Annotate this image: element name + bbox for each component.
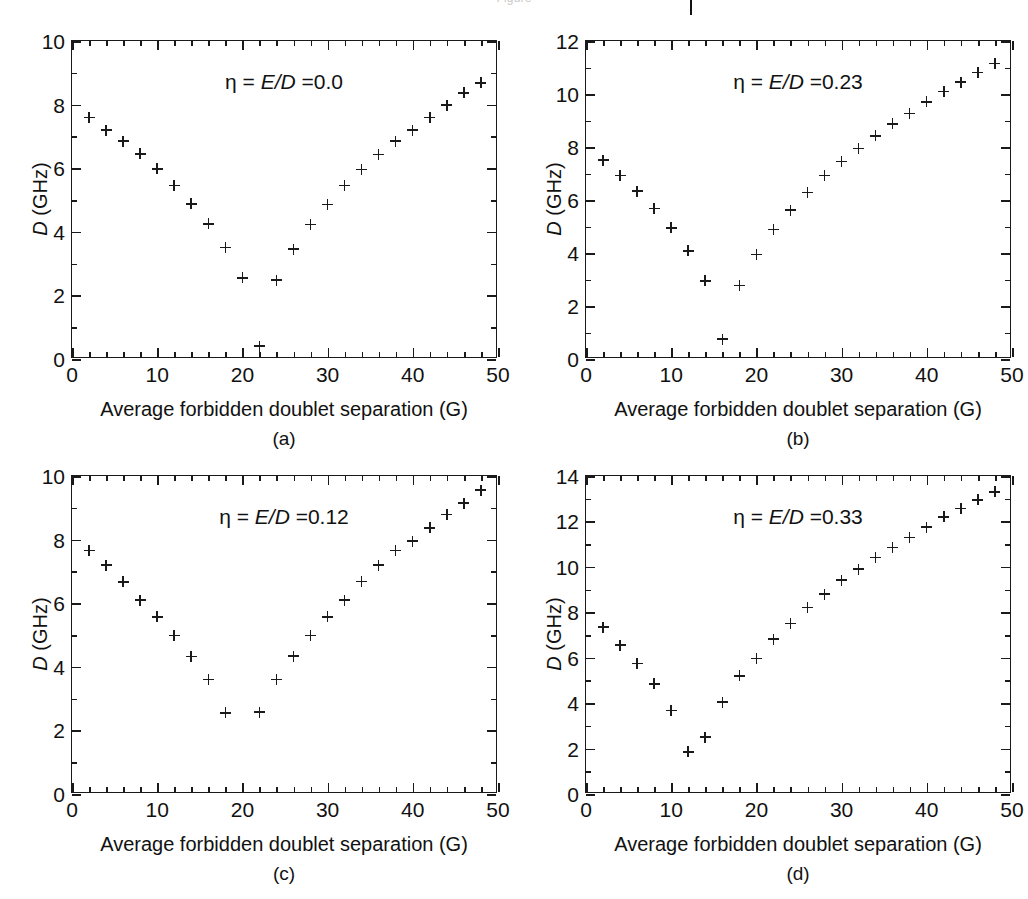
y-tick-major-b bbox=[1001, 253, 1010, 255]
data-point bbox=[203, 218, 214, 229]
data-point bbox=[870, 552, 881, 563]
x-tick-minor-d bbox=[961, 787, 963, 792]
data-point bbox=[169, 180, 180, 191]
x-tick-minor-d bbox=[773, 787, 775, 792]
x-tick-major-c bbox=[328, 476, 330, 485]
x-tick-minor-b bbox=[654, 41, 656, 46]
y-tick-major-c bbox=[487, 603, 496, 605]
x-tick-major-a bbox=[72, 348, 74, 357]
x-axis-title-a: Average forbidden doublet separation (G) bbox=[71, 398, 497, 421]
y-tick-major-c bbox=[72, 603, 81, 605]
data-point bbox=[666, 705, 677, 716]
eta-annotation-c: η = E/D =0.12 bbox=[219, 505, 349, 529]
x-tick-major-b bbox=[927, 41, 929, 50]
y-tick-label-a: 2 bbox=[53, 285, 65, 306]
x-tick-minor-c bbox=[276, 787, 278, 792]
x-tick-label-c: 20 bbox=[231, 799, 254, 820]
x-tick-minor-c bbox=[191, 787, 193, 792]
data-point bbox=[666, 222, 677, 233]
y-tick-label-a: 8 bbox=[53, 94, 65, 115]
x-tick-minor-d bbox=[825, 787, 827, 792]
data-point bbox=[339, 180, 350, 191]
y-tick-minor-b bbox=[586, 121, 591, 123]
y-tick-label-a: 10 bbox=[42, 31, 65, 52]
x-tick-minor-a bbox=[345, 352, 347, 357]
y-tick-major-d bbox=[1001, 658, 1010, 660]
x-tick-major-a bbox=[498, 41, 500, 50]
x-tick-minor-c bbox=[259, 787, 261, 792]
x-tick-label-c: 40 bbox=[401, 799, 424, 820]
x-tick-minor-c bbox=[464, 787, 466, 792]
data-point bbox=[887, 542, 898, 553]
x-tick-major-c bbox=[413, 783, 415, 792]
x-tick-major-d bbox=[842, 476, 844, 485]
x-tick-minor-b bbox=[654, 352, 656, 357]
x-tick-minor-d bbox=[705, 476, 707, 481]
panel-label-b: (b) bbox=[585, 428, 1011, 450]
data-point bbox=[220, 707, 231, 718]
x-tick-minor-c bbox=[106, 476, 108, 481]
x-tick-minor-a bbox=[311, 41, 313, 46]
x-tick-major-d bbox=[671, 783, 673, 792]
data-point bbox=[424, 112, 435, 123]
data-point bbox=[186, 198, 197, 209]
x-tick-major-c bbox=[242, 476, 244, 485]
y-tick-minor-b bbox=[1005, 333, 1010, 335]
x-tick-minor-b bbox=[961, 41, 963, 46]
x-tick-minor-c bbox=[481, 787, 483, 792]
data-point bbox=[717, 697, 728, 708]
x-tick-minor-c bbox=[89, 476, 91, 481]
x-tick-label-d: 50 bbox=[1000, 799, 1023, 820]
x-tick-minor-d bbox=[688, 476, 690, 481]
x-tick-minor-c bbox=[430, 787, 432, 792]
y-tick-minor-c bbox=[491, 699, 496, 701]
x-tick-minor-b bbox=[859, 41, 861, 46]
x-tick-minor-d bbox=[603, 476, 605, 481]
data-point bbox=[989, 58, 1000, 69]
data-point bbox=[305, 219, 316, 230]
x-tick-minor-d bbox=[944, 476, 946, 481]
data-point bbox=[853, 564, 864, 575]
x-tick-minor-c bbox=[208, 476, 210, 481]
x-tick-minor-b bbox=[808, 41, 810, 46]
y-tick-major-d bbox=[586, 749, 595, 751]
x-tick-minor-a bbox=[123, 352, 125, 357]
x-tick-minor-a bbox=[396, 41, 398, 46]
x-tick-minor-a bbox=[123, 41, 125, 46]
y-tick-minor-b bbox=[586, 68, 591, 70]
x-tick-minor-c bbox=[259, 476, 261, 481]
data-point bbox=[441, 509, 452, 520]
y-tick-minor-d bbox=[1005, 499, 1010, 501]
data-point bbox=[768, 634, 779, 645]
data-point bbox=[904, 108, 915, 119]
x-tick-minor-c bbox=[89, 787, 91, 792]
x-tick-major-c bbox=[413, 476, 415, 485]
x-tick-label-d: 20 bbox=[745, 799, 768, 820]
x-tick-major-d bbox=[756, 476, 758, 485]
y-tick-major-d bbox=[1001, 521, 1010, 523]
data-point bbox=[118, 136, 129, 147]
x-tick-minor-c bbox=[311, 787, 313, 792]
y-tick-label-a: 6 bbox=[53, 158, 65, 179]
x-tick-minor-d bbox=[893, 787, 895, 792]
y-axis-title-d: D (GHz) bbox=[543, 597, 566, 670]
x-tick-major-b bbox=[842, 348, 844, 357]
y-tick-label-c: 2 bbox=[53, 720, 65, 741]
y-tick-label-c: 0 bbox=[53, 784, 65, 805]
data-point bbox=[458, 87, 469, 98]
x-tick-minor-d bbox=[688, 787, 690, 792]
x-tick-minor-a bbox=[464, 41, 466, 46]
y-tick-minor-b bbox=[586, 333, 591, 335]
data-point bbox=[288, 244, 299, 255]
x-tick-minor-c bbox=[106, 787, 108, 792]
x-tick-minor-d bbox=[961, 476, 963, 481]
y-tick-label-a: 0 bbox=[53, 349, 65, 370]
y-tick-minor-d bbox=[586, 544, 591, 546]
panel-d: 0246810121401020304050η = E/D =0.33D (GH… bbox=[514, 465, 1028, 899]
data-point bbox=[683, 746, 694, 757]
x-tick-minor-c bbox=[396, 787, 398, 792]
x-tick-label-d: 40 bbox=[915, 799, 938, 820]
y-axis-title-a: D (GHz) bbox=[29, 162, 52, 235]
data-point bbox=[649, 203, 660, 214]
y-tick-label-b: 10 bbox=[556, 84, 579, 105]
